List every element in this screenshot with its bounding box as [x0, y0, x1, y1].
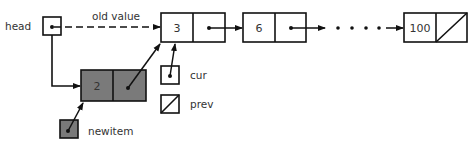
head-label: head: [5, 20, 31, 32]
node-6: 6: [243, 13, 325, 42]
node-100: 100: [404, 13, 467, 42]
node-value: 2: [94, 80, 101, 93]
head-to-node-2-arrow: [52, 35, 80, 86]
newitem-label: newitem: [88, 125, 133, 137]
cur-pointer: cur: [161, 44, 207, 84]
node-3: 3: [161, 13, 242, 42]
cur-label: cur: [190, 69, 207, 81]
prev-label: prev: [190, 98, 213, 110]
node-value: 6: [256, 22, 263, 35]
newitem-pointer: newitem: [60, 103, 133, 138]
node-value: 3: [174, 22, 181, 35]
head-dot: [50, 25, 54, 29]
prev-pointer: prev: [161, 95, 213, 113]
linked-list-diagram: head old value 3 6 100: [0, 0, 474, 152]
node-value: 100: [410, 22, 431, 35]
head-pointer: head: [5, 17, 61, 35]
old-value-link: old value: [54, 10, 160, 27]
old-value-label: old value: [92, 10, 140, 22]
ellipsis: [336, 26, 403, 30]
node-2: 2: [81, 44, 160, 101]
